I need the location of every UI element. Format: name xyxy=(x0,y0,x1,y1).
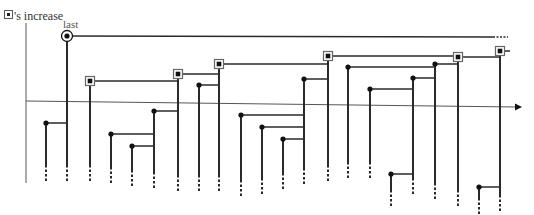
square-node-core xyxy=(326,54,331,59)
dot-node-icon xyxy=(410,75,415,80)
square-node-core xyxy=(176,72,181,77)
dot-node-icon xyxy=(345,64,350,69)
axes xyxy=(26,23,522,183)
square-node-core xyxy=(456,55,461,60)
node-link xyxy=(67,36,493,37)
dot-node-icon xyxy=(476,184,481,189)
x-axis-arrow-icon xyxy=(515,104,522,111)
dot-node-icon xyxy=(151,108,156,113)
dot-node-icon xyxy=(367,86,372,91)
square-node-core xyxy=(498,49,503,54)
dot-node-icon xyxy=(43,120,48,125)
dot-node-icon xyxy=(259,124,264,129)
dot-node-icon xyxy=(301,76,306,81)
square-node-core xyxy=(88,79,93,84)
dot-node-icon xyxy=(108,131,113,136)
dot-node-icon xyxy=(238,112,243,117)
tree-diagram xyxy=(0,0,534,215)
dot-node-icon xyxy=(432,61,437,66)
square-node-core xyxy=(217,62,222,67)
x-axis xyxy=(26,101,516,107)
dot-node-icon xyxy=(280,136,285,141)
last-circle-node-core xyxy=(64,33,69,38)
dot-node-icon xyxy=(196,82,201,87)
dot-node-icon xyxy=(129,143,134,148)
dot-node-icon xyxy=(388,171,393,176)
links xyxy=(46,36,510,215)
